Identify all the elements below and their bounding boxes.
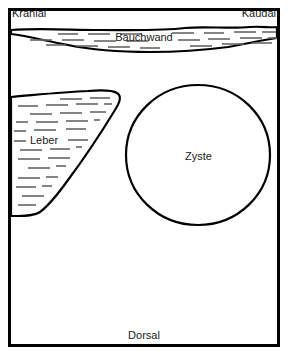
label-dorsal: Dorsal [128,330,160,341]
label-bauchwand: Bauchwand [115,32,173,43]
diagram-canvas [0,0,288,357]
label-kranial: Kranial [12,8,46,19]
label-kaudal: Kaudal [242,8,276,19]
label-leber: Leber [30,135,58,146]
sonography-orientation-diagram: Kranial Kaudal Bauchwand Leber Zyste Dor… [0,0,288,357]
label-zyste: Zyste [185,151,212,162]
